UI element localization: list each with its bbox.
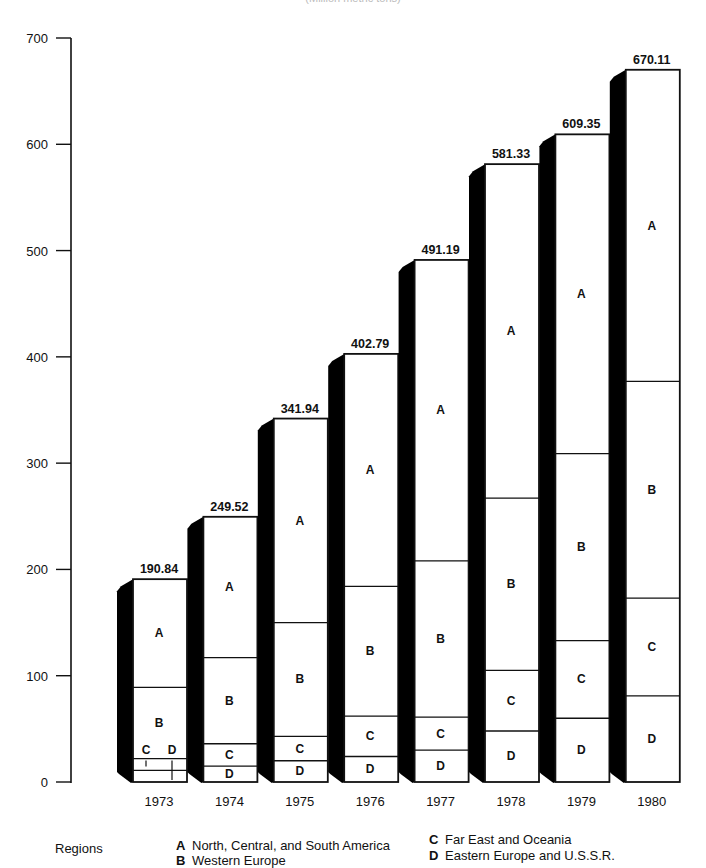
y-tick-label: 400 bbox=[26, 350, 48, 365]
x-tick-label: 1975 bbox=[285, 794, 314, 809]
bar-1980: DCBA670.11 bbox=[610, 53, 680, 783]
bar-side bbox=[117, 579, 133, 783]
segment-label-d: D bbox=[225, 767, 234, 781]
segment-label-b: B bbox=[436, 632, 445, 646]
y-tick-label: 600 bbox=[26, 137, 48, 152]
segment-label-b: B bbox=[577, 540, 586, 554]
segment-label-a: A bbox=[295, 514, 304, 528]
bar-1973: BACD190.84 bbox=[117, 562, 187, 783]
bars: BACD190.84DCBA249.52DCBA341.94DCBA402.79… bbox=[117, 53, 680, 783]
y-tick-label: 500 bbox=[26, 244, 48, 259]
segment-label-d: D bbox=[366, 762, 375, 776]
bar-1976: DCBA402.79 bbox=[328, 337, 398, 783]
segment-label-c: C bbox=[577, 672, 586, 686]
bar-side bbox=[610, 70, 626, 783]
legend-item-b: BWestern Europe bbox=[176, 853, 286, 868]
segment-label-d: D bbox=[295, 764, 304, 778]
bar-face bbox=[203, 517, 257, 782]
segment-label-a: A bbox=[436, 403, 445, 417]
legend-key: B bbox=[176, 853, 192, 868]
bar-side bbox=[469, 164, 485, 783]
x-tick-label: 1974 bbox=[215, 794, 244, 809]
segment-label-b: B bbox=[647, 483, 656, 497]
bar-face bbox=[274, 419, 328, 782]
segment-label-c: C bbox=[225, 748, 234, 762]
bar-side bbox=[539, 134, 555, 783]
x-tick-label: 1977 bbox=[426, 794, 455, 809]
segment-label-c: C bbox=[647, 640, 656, 654]
legend-label: North, Central, and South America bbox=[192, 838, 390, 853]
segment-label-d: D bbox=[168, 743, 177, 757]
y-tick-label: 700 bbox=[26, 31, 48, 46]
x-tick-label: 1976 bbox=[356, 794, 385, 809]
segment-label-d: D bbox=[647, 732, 656, 746]
segment-label-d: D bbox=[577, 743, 586, 757]
legend-label: Eastern Europe and U.S.S.R. bbox=[445, 848, 615, 863]
legend-key: C bbox=[429, 832, 445, 847]
stacked-bar-chart: 0100200300400500600700 BACD190.84DCBA249… bbox=[0, 0, 706, 835]
bar-total-label: 341.94 bbox=[281, 402, 319, 416]
y-tick-label: 100 bbox=[26, 669, 48, 684]
bar-total-label: 581.33 bbox=[492, 147, 530, 161]
y-tick-label: 200 bbox=[26, 562, 48, 577]
x-tick-label: 1973 bbox=[145, 794, 174, 809]
legend: Regions ANorth, Central, and South Ameri… bbox=[0, 838, 706, 868]
x-tick-label: 1979 bbox=[567, 794, 596, 809]
bar-side bbox=[187, 517, 203, 783]
bar-1974: DCBA249.52 bbox=[187, 500, 257, 783]
legend-key: A bbox=[176, 838, 192, 853]
segment-label-d: D bbox=[507, 749, 516, 763]
segment-label-b: B bbox=[507, 577, 516, 591]
segment-label-a: A bbox=[577, 287, 586, 301]
segment-label-b: B bbox=[225, 694, 234, 708]
bar-total-label: 609.35 bbox=[562, 117, 600, 131]
x-axis-labels: 19731974197519761977197819791980 bbox=[145, 794, 667, 809]
segment-label-a: A bbox=[155, 626, 164, 640]
legend-item-c: CFar East and Oceania bbox=[429, 832, 571, 847]
x-tick-label: 1978 bbox=[497, 794, 526, 809]
bar-face bbox=[344, 354, 398, 782]
bar-side bbox=[399, 260, 415, 783]
segment-label-a: A bbox=[647, 219, 656, 233]
bar-total-label: 670.11 bbox=[633, 53, 671, 67]
bar-face bbox=[626, 70, 680, 782]
bar-total-label: 402.79 bbox=[351, 337, 389, 351]
segment-label-c: C bbox=[142, 743, 151, 757]
y-tick-label: 0 bbox=[41, 775, 48, 790]
bar-face bbox=[485, 164, 539, 782]
bar-side bbox=[258, 419, 274, 783]
bar-1978: DCBA581.33 bbox=[469, 147, 539, 783]
segment-label-b: B bbox=[366, 644, 375, 658]
segment-label-b: B bbox=[155, 716, 164, 730]
bar-total-label: 491.19 bbox=[421, 243, 459, 257]
bar-total-label: 249.52 bbox=[210, 500, 248, 514]
y-tick-label: 300 bbox=[26, 456, 48, 471]
segment-label-b: B bbox=[295, 672, 304, 686]
segment-label-a: A bbox=[507, 324, 516, 338]
legend-label: Western Europe bbox=[192, 853, 286, 868]
y-axis: 0100200300400500600700 bbox=[26, 31, 71, 790]
bar-1975: DCBA341.94 bbox=[258, 402, 328, 783]
segment-label-c: C bbox=[366, 729, 375, 743]
segment-label-c: C bbox=[436, 727, 445, 741]
bar-total-label: 190.84 bbox=[140, 562, 178, 576]
bar-1979: DCBA609.35 bbox=[539, 117, 609, 783]
legend-title: Regions bbox=[55, 841, 103, 856]
legend-item-d: DEastern Europe and U.S.S.R. bbox=[429, 848, 615, 863]
legend-label: Far East and Oceania bbox=[445, 832, 571, 847]
bar-1977: DCBA491.19 bbox=[399, 243, 469, 783]
segment-label-a: A bbox=[366, 463, 375, 477]
x-tick-label: 1980 bbox=[637, 794, 666, 809]
segment-label-d: D bbox=[436, 759, 445, 773]
bar-side bbox=[328, 354, 344, 783]
legend-item-a: ANorth, Central, and South America bbox=[176, 838, 390, 853]
segment-label-c: C bbox=[507, 694, 516, 708]
segment-label-c: C bbox=[295, 742, 304, 756]
bar-face bbox=[415, 260, 469, 782]
legend-key: D bbox=[429, 848, 445, 863]
segment-label-a: A bbox=[225, 580, 234, 594]
